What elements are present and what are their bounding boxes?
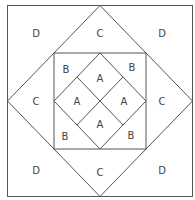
region-label-c: C [97,28,104,39]
region-label-a: A [121,96,128,107]
region-label-c: C [33,96,40,107]
region-label-b: B [62,131,69,142]
region-label-a: A [97,119,104,130]
region-label-a: A [97,73,104,84]
region-label-d: D [158,165,166,176]
region-label-a: A [74,96,81,107]
region-label-d: D [158,28,166,39]
region-label-c: C [97,167,104,178]
region-label-b: B [128,130,135,141]
region-label-b: B [129,62,136,73]
region-label-c: C [159,96,166,107]
region-label-b: B [63,64,70,75]
region-label-d: D [32,165,40,176]
region-label-d: D [32,28,40,39]
